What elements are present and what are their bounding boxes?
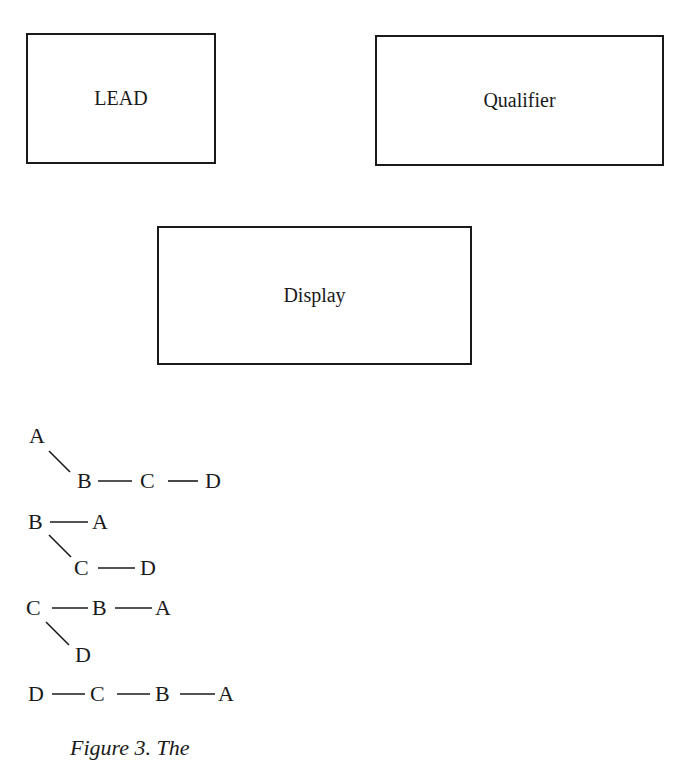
- tree1-node-b: B: [77, 470, 92, 492]
- tree3-node-c: C: [26, 597, 41, 619]
- tree2-node-c: C: [74, 557, 89, 579]
- tree3-node-b: B: [92, 597, 107, 619]
- figure-caption: Figure 3. The: [70, 735, 190, 761]
- tree2-node-a: A: [92, 511, 108, 533]
- edge-a-b: [49, 451, 70, 472]
- tree3-node-a: A: [155, 597, 171, 619]
- tree1-node-a: A: [29, 425, 45, 447]
- tree2-node-b: B: [28, 511, 43, 533]
- tree4-node-d: D: [28, 683, 44, 705]
- tree4-node-c: C: [90, 683, 105, 705]
- tree1-node-d: D: [205, 470, 221, 492]
- tree1-node-c: C: [140, 470, 155, 492]
- tree4-node-a: A: [218, 683, 234, 705]
- tree4-node-b: B: [155, 683, 170, 705]
- edge-b-c: [49, 535, 71, 557]
- tree2-node-d: D: [140, 557, 156, 579]
- edge-c-d: [46, 622, 69, 645]
- tree3-node-d: D: [75, 644, 91, 666]
